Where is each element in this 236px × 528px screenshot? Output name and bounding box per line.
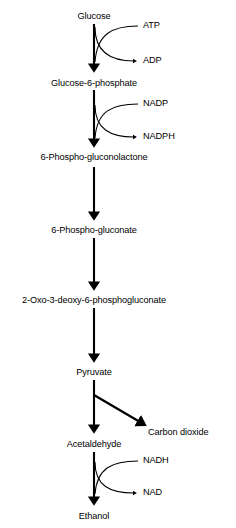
curve-atp-input [95, 26, 138, 62]
metabolite-label-acetaldehyde: Acetaldehyde [67, 440, 121, 449]
cofactor-label-nadph: NADPH [143, 132, 175, 141]
cofactor-label-nad: NAD [143, 488, 162, 497]
metabolite-label-2-oxo-3-deoxy-6-phosphogluconate: 2-Oxo-3-deoxy-6-phosphogluconate [22, 296, 166, 305]
curve-nadph-output [95, 105, 134, 137]
metabolite-label-6-phospho-gluconolactone: 6-Phospho-gluconolactone [41, 153, 148, 162]
cofactor-label-adp: ADP [143, 56, 162, 65]
metabolite-label-glucose-6-phosphate: Glucose-6-phosphate [51, 79, 137, 88]
cofactor-label-nadh: NADH [143, 456, 169, 465]
curve-nadh-input [95, 461, 138, 494]
pathway-diagram: Glucose Glucose-6-phosphate 6-Phospho-gl… [0, 0, 236, 528]
metabolite-label-pyruvate: Pyruvate [76, 368, 111, 377]
curve-nadp-input [95, 104, 138, 138]
side-product-label-carbon-dioxide: Carbon dioxide [148, 428, 208, 437]
cofactor-label-nadp: NADP [143, 99, 168, 108]
metabolite-label-ethanol: Ethanol [79, 512, 109, 521]
metabolite-label-6-phospho-gluconate: 6-Phospho-gluconate [51, 226, 136, 235]
curve-adp-output [95, 27, 134, 61]
arrow-pyruvate-to-carbon-dioxide [94, 395, 140, 422]
curve-nad-output [95, 462, 134, 493]
cofactor-label-atp: ATP [143, 21, 160, 30]
metabolite-label-glucose: Glucose [77, 12, 110, 21]
